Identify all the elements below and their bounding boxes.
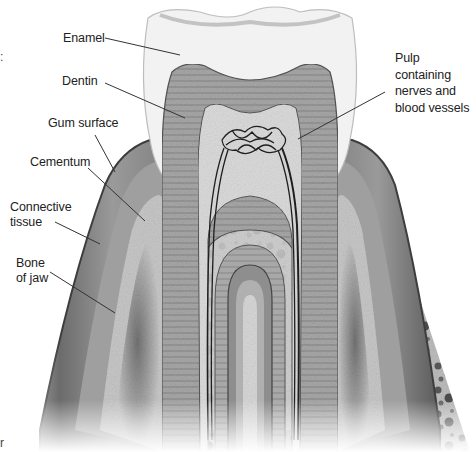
label-bone-of-jaw: Bone of jaw <box>16 256 48 286</box>
leader-gum-surface <box>95 135 115 172</box>
label-cementum: Cementum <box>30 155 90 170</box>
edge-fragment-bottom-left: r <box>0 436 4 450</box>
label-pulp-line2: containing <box>395 67 469 84</box>
label-pulp: Pulp containing nerves and blood vessels <box>395 50 469 116</box>
label-pulp-line1: Pulp <box>395 50 469 67</box>
label-connective-tissue-line1: Connective <box>10 200 72 215</box>
label-enamel: Enamel <box>63 31 105 46</box>
label-bone-of-jaw-line1: Bone <box>16 256 48 271</box>
label-dentin: Dentin <box>62 74 98 89</box>
label-pulp-line3: nerves and <box>395 83 469 100</box>
label-pulp-line4: blood vessels <box>395 100 469 117</box>
label-connective-tissue-line2: tissue <box>10 215 72 230</box>
edge-fragment-top-left: : <box>0 50 3 64</box>
label-bone-of-jaw-line2: of jaw <box>16 271 48 286</box>
label-connective-tissue: Connective tissue <box>10 200 72 230</box>
tooth-diagram: Enamel Dentin Gum surface Cementum Conne… <box>0 0 476 452</box>
label-gum-surface: Gum surface <box>48 116 118 131</box>
